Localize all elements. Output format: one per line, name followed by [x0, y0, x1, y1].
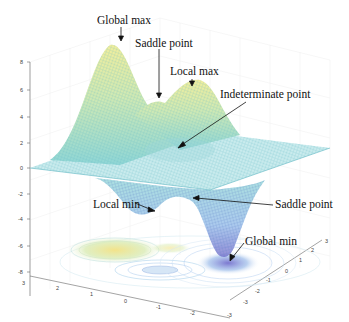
- z-tick-label: 2: [20, 140, 23, 146]
- y-axis-ticks: -3 -2 -1 0 1 2 3: [243, 238, 328, 305]
- y-tick-label: 1: [299, 257, 302, 263]
- annotation-saddle-point-bottom: Saddle point: [275, 199, 333, 211]
- annotation-indeterminate-point: Indeterminate point: [220, 89, 310, 101]
- z-tick-label: 0: [20, 165, 23, 171]
- z-tick-label: 4: [20, 114, 23, 120]
- x-tick-label: -2: [190, 310, 195, 316]
- annotation-global-min: Global min: [245, 236, 297, 248]
- x-tick-label: 0: [124, 298, 127, 304]
- annotation-saddle-point-top: Saddle point: [135, 38, 193, 50]
- x-tick-label: 1: [90, 291, 93, 297]
- y-tick-label: 2: [311, 247, 314, 253]
- y-tick-label: -2: [255, 288, 260, 294]
- z-tick-label: -6: [18, 243, 23, 249]
- z-tick-label: -8: [18, 269, 23, 275]
- y-tick-label: 3: [325, 238, 328, 244]
- x-tick-label: -1: [156, 304, 161, 310]
- y-tick-label: -3: [243, 299, 248, 305]
- annotation-local-min: Local min: [93, 199, 140, 211]
- z-tick-label: 6: [20, 87, 23, 93]
- z-tick-label: -4: [18, 216, 23, 222]
- annotation-global-max: Global max: [97, 15, 151, 27]
- x-tick-label: 3: [22, 280, 25, 286]
- x-tick-label: 2: [56, 285, 59, 291]
- z-tick-label: -2: [18, 191, 23, 197]
- x-axis-ticks: 3 2 1 0 -1 -2 -3: [22, 280, 232, 318]
- x-tick-label: -3: [227, 312, 232, 318]
- z-tick-label: 8: [20, 59, 23, 65]
- annotation-local-max: Local max: [170, 66, 219, 78]
- z-axis: 8 6 4 2 0 -2 -4 -6 -8: [18, 59, 30, 296]
- y-tick-label: 0: [285, 268, 288, 274]
